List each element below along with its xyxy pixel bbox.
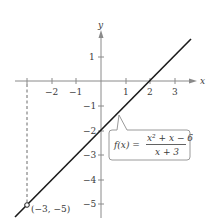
x-tick-label: −2 <box>45 87 58 97</box>
open-point-icon <box>25 203 30 208</box>
y-tick-label: −2 <box>83 126 96 136</box>
x-tick-label: −1 <box>69 87 82 97</box>
x-tick-label: 3 <box>172 87 178 97</box>
callout-denominator: x + 3 <box>155 147 179 157</box>
function-graph: −2 −1 1 2 3 x 1 −1 −2 −3 −4 −5 y <box>0 0 214 223</box>
y-tick-label: −1 <box>83 101 96 111</box>
x-axis-arrow-icon <box>189 79 197 84</box>
y-axis-name: y <box>97 20 104 30</box>
x-axis: −2 −1 1 2 3 x <box>15 76 205 97</box>
callout-numerator: x² + x − 6 <box>147 133 193 143</box>
x-axis-name: x <box>200 76 205 86</box>
function-line <box>15 39 191 217</box>
y-tick-label: 1 <box>89 52 95 62</box>
point-label: (−3, −5) <box>31 204 70 214</box>
y-tick-label: −4 <box>83 175 97 185</box>
y-axis-arrow-icon <box>99 30 104 38</box>
x-tick-label: 2 <box>147 87 153 97</box>
y-tick-label: −3 <box>83 150 97 160</box>
y-axis: 1 −1 −2 −3 −4 −5 y <box>83 20 104 218</box>
callout-lhs: f(x) = <box>113 140 140 150</box>
y-tick-label: −5 <box>83 199 97 209</box>
x-tick-label: 1 <box>123 87 129 97</box>
function-callout: f(x) = x² + x − 6 x + 3 <box>109 115 193 160</box>
